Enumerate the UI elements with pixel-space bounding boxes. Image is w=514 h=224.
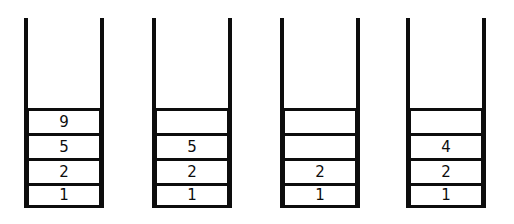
stack-1-cell-1: 2 <box>26 158 102 183</box>
stack-1-cell-2-value: 5 <box>59 140 69 155</box>
stack-1-cells: 9 5 2 1 <box>26 108 102 208</box>
stack-4-cells: 4 2 1 <box>408 108 484 208</box>
stack-4-cell-1: 2 <box>408 158 484 183</box>
stack-2-cell-1-value: 2 <box>187 165 197 180</box>
stack-1-cell-0: 1 <box>26 183 102 208</box>
stack-3-cell-1: 2 <box>282 158 358 183</box>
stack-3-cell-3 <box>282 108 358 133</box>
stack-2-cell-0-value: 1 <box>187 188 197 203</box>
stack-4-cell-0-value: 1 <box>441 188 451 203</box>
stack-4-cell-2-value: 4 <box>441 140 451 155</box>
stack-2-cells: 5 2 1 <box>154 108 230 208</box>
stack-3-cell-0-value: 1 <box>315 188 325 203</box>
stack-3-cell-1-value: 2 <box>315 165 325 180</box>
stack-1-cell-3: 9 <box>26 108 102 133</box>
stack-2-cell-1: 2 <box>154 158 230 183</box>
stack-1-cell-0-value: 1 <box>59 188 69 203</box>
stack-4-cell-2: 4 <box>408 133 484 158</box>
stack-1-cell-2: 5 <box>26 133 102 158</box>
stack-2-cell-2-value: 5 <box>187 140 197 155</box>
stack-2-cell-3 <box>154 108 230 133</box>
stack-4: 4 2 1 <box>406 18 486 208</box>
stack-2: 5 2 1 <box>152 18 232 208</box>
stack-4-cell-1-value: 2 <box>441 165 451 180</box>
stack-3: 2 1 <box>280 18 360 208</box>
diagram-canvas: 9 5 2 1 5 2 1 <box>0 0 514 224</box>
stack-2-cell-2: 5 <box>154 133 230 158</box>
stack-2-cell-0: 1 <box>154 183 230 208</box>
stack-4-cell-0: 1 <box>408 183 484 208</box>
stack-3-cell-2 <box>282 133 358 158</box>
stack-1-cell-1-value: 2 <box>59 165 69 180</box>
stack-3-cells: 2 1 <box>282 108 358 208</box>
stack-4-cell-3 <box>408 108 484 133</box>
stack-1-cell-3-value: 9 <box>59 115 69 130</box>
stack-3-cell-0: 1 <box>282 183 358 208</box>
stack-1: 9 5 2 1 <box>24 18 104 208</box>
